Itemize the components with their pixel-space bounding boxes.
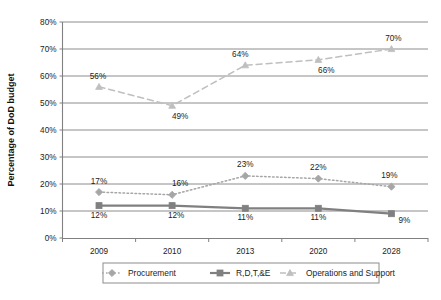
x-tick-label: 2020 [309,247,328,256]
y-tick-label: 70% [40,45,56,54]
data-point-label: 11% [237,213,253,222]
data-point-label: 64% [232,50,248,59]
data-point-label: 56% [90,72,106,81]
data-point-label: 17% [91,177,107,186]
line-chart: 0%10%20%30%40%50%60%70%80% 2009201020132… [0,0,441,300]
chart-background [0,0,441,300]
data-point-marker [242,205,248,211]
data-point-label: 22% [310,163,326,172]
chart-legend: ProcurementR,D,T,&EOperations and Suppor… [102,263,396,283]
y-tick-label: 0% [45,234,57,243]
y-tick-label: 60% [40,72,56,81]
data-point-marker [388,211,394,217]
data-point-label: 49% [172,112,188,121]
y-tick-label: 50% [40,99,56,108]
y-tick-label: 10% [40,207,56,216]
y-tick-label: 30% [40,153,56,162]
chart-container: 0%10%20%30%40%50%60%70%80% 2009201020132… [0,0,441,300]
legend-item-label[interactable]: Procurement [128,268,177,278]
data-point-label: 12% [168,211,184,220]
data-point-marker [169,203,175,209]
y-axis-title: Percentage of DoD budget [6,73,16,186]
data-point-label: 70% [385,34,401,43]
y-tick-label: 80% [40,18,56,27]
data-point-marker [96,203,102,209]
x-tick-label: 2013 [236,247,255,256]
data-point-label: 16% [172,179,188,188]
data-point-label: 9% [398,216,410,225]
x-tick-label: 2009 [90,247,109,256]
data-point-label: 12% [91,211,107,220]
data-point-label: 19% [381,171,397,180]
legend-item-label[interactable]: R,D,T,&E [236,268,271,278]
data-point-label: 11% [310,213,326,222]
legend-item-label[interactable]: Operations and Support [306,268,396,278]
x-tick-label: 2028 [382,247,401,256]
y-tick-label: 20% [40,180,56,189]
data-point-marker [315,205,321,211]
y-tick-label: 40% [40,126,56,135]
x-tick-label: 2010 [163,247,182,256]
data-point-label: 23% [237,160,253,169]
legend-swatch-marker [217,270,223,276]
data-point-label: 66% [318,66,334,75]
